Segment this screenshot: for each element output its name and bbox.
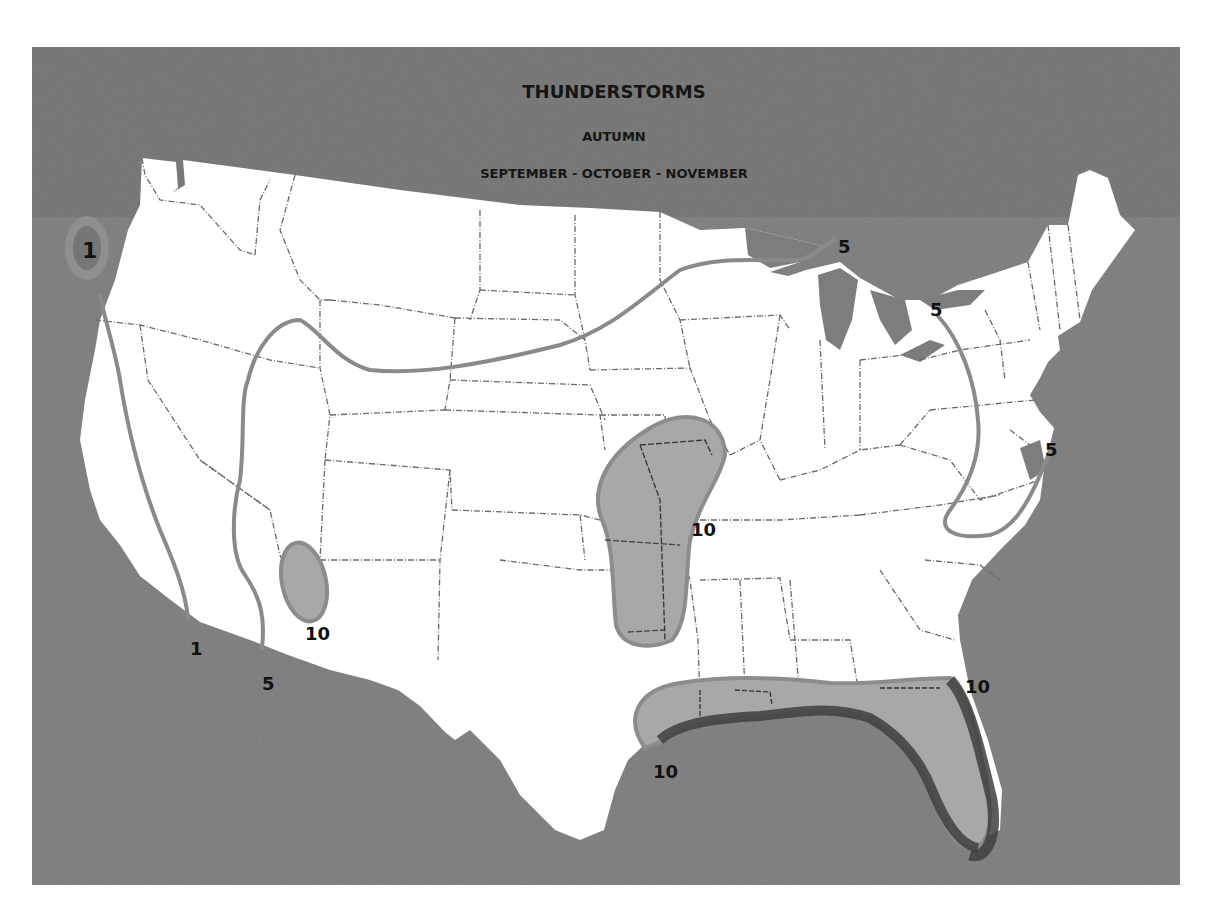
label-fl-10: 10 (965, 676, 990, 697)
map-title: THUNDERSTORMS (522, 81, 705, 102)
label-mw-5: 5 (838, 236, 851, 257)
map-season: AUTUMN (582, 129, 645, 144)
label-tx-10: 10 (653, 761, 678, 782)
thunderstorm-map: THUNDERSTORMS AUTUMN SEPTEMBER - OCTOBER… (32, 47, 1180, 885)
caption-cutoff (0, 892, 1206, 913)
label-mid-atl-5: 5 (1045, 439, 1058, 460)
label-az-10: 10 (305, 623, 330, 644)
label-ne-5: 5 (930, 299, 943, 320)
label-nw-1: 1 (82, 238, 97, 263)
map-months: SEPTEMBER - OCTOBER - NOVEMBER (480, 166, 748, 181)
label-sw-1: 1 (190, 638, 203, 659)
label-sw-5: 5 (262, 673, 275, 694)
label-plains-10: 10 (691, 519, 716, 540)
